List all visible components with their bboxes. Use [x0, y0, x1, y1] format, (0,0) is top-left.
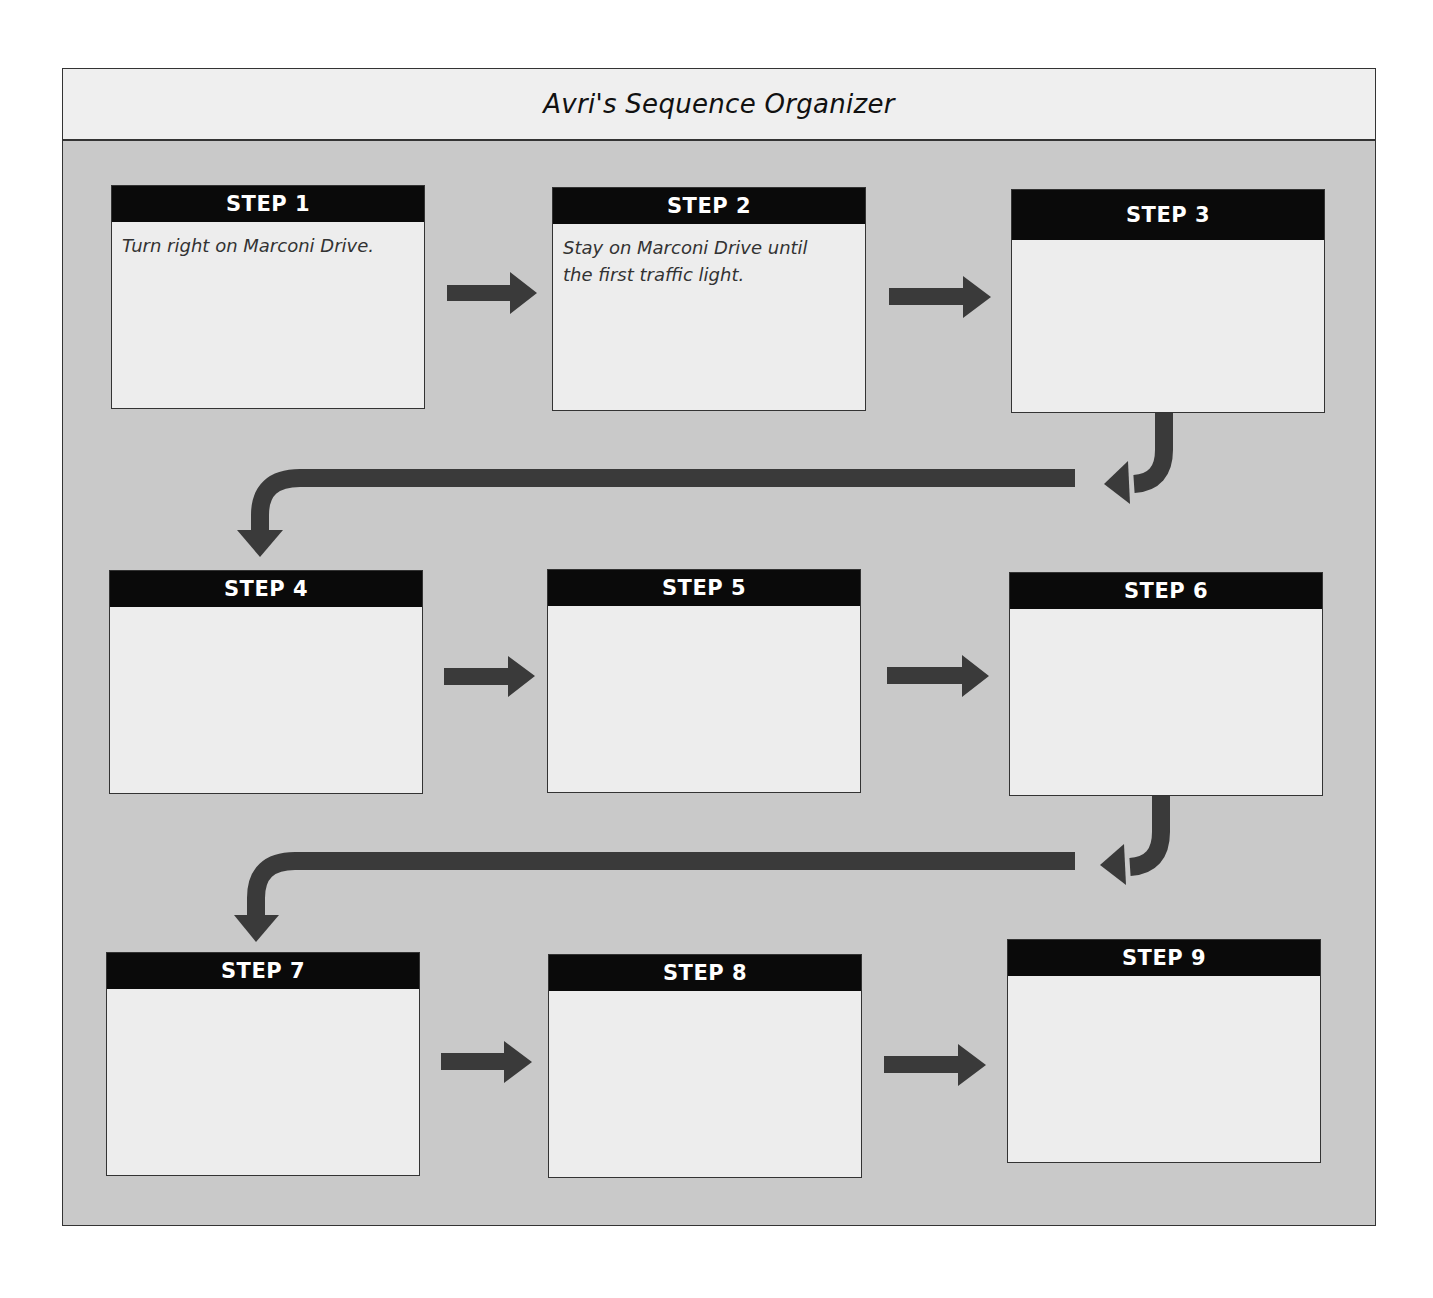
step-text[interactable]: [1010, 609, 1322, 629]
step-header: STEP 4: [110, 571, 422, 607]
step-box-8: STEP 8: [548, 954, 862, 1178]
step-header: STEP 9: [1008, 940, 1320, 976]
step-text[interactable]: [549, 991, 861, 1011]
step-text[interactable]: [548, 606, 860, 626]
title-bar: Avri's Sequence Organizer: [63, 69, 1375, 141]
step-header: STEP 8: [549, 955, 861, 991]
step-box-6: STEP 6: [1009, 572, 1323, 796]
step-text[interactable]: [1012, 240, 1324, 260]
step-header: STEP 3: [1012, 190, 1324, 240]
step-box-4: STEP 4: [109, 570, 423, 794]
step-header: STEP 7: [107, 953, 419, 989]
step-box-3: STEP 3: [1011, 189, 1325, 413]
page-title: Avri's Sequence Organizer: [543, 89, 895, 119]
step-text[interactable]: [107, 989, 419, 1009]
step-header: STEP 1: [112, 186, 424, 222]
step-box-2: STEP 2 Stay on Marconi Drive until the f…: [552, 187, 866, 411]
step-text[interactable]: Turn right on Marconi Drive.: [112, 222, 424, 269]
step-header: STEP 6: [1010, 573, 1322, 609]
step-text[interactable]: [110, 607, 422, 627]
step-text[interactable]: Stay on Marconi Drive until the first tr…: [553, 224, 865, 298]
step-box-7: STEP 7: [106, 952, 420, 1176]
step-box-1: STEP 1 Turn right on Marconi Drive.: [111, 185, 425, 409]
step-header: STEP 2: [553, 188, 865, 224]
step-text[interactable]: [1008, 976, 1320, 996]
step-header: STEP 5: [548, 570, 860, 606]
step-box-5: STEP 5: [547, 569, 861, 793]
step-box-9: STEP 9: [1007, 939, 1321, 1163]
